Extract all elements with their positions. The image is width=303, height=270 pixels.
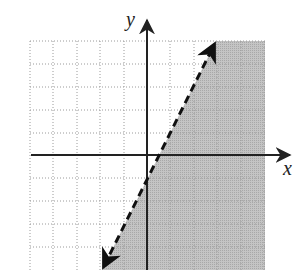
x-axis-label: x bbox=[283, 157, 292, 180]
coordinate-plane bbox=[0, 0, 303, 270]
y-axis-label: y bbox=[126, 8, 135, 31]
